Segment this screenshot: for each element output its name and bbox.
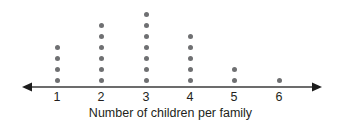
data-dot xyxy=(144,56,149,61)
data-dot xyxy=(99,78,104,83)
data-dot xyxy=(55,78,60,83)
dot-plot-figure: 123456 Number of children per family xyxy=(0,0,341,125)
data-dot xyxy=(188,45,193,50)
data-dot xyxy=(99,45,104,50)
tick-label-2: 2 xyxy=(86,90,116,104)
data-dot xyxy=(232,78,237,83)
dot-plot-dot-field xyxy=(0,0,341,90)
data-dot xyxy=(188,56,193,61)
data-dot xyxy=(277,78,282,83)
data-dot xyxy=(144,23,149,28)
data-dot xyxy=(144,45,149,50)
tick-label-5: 5 xyxy=(219,90,249,104)
data-dot xyxy=(232,67,237,72)
data-dot xyxy=(144,67,149,72)
data-dot xyxy=(99,34,104,39)
data-dot xyxy=(144,12,149,17)
data-dot xyxy=(188,67,193,72)
data-dot xyxy=(99,67,104,72)
data-dot xyxy=(188,78,193,83)
data-dot xyxy=(55,56,60,61)
data-dot xyxy=(55,67,60,72)
tick-label-4: 4 xyxy=(175,90,205,104)
data-dot xyxy=(188,34,193,39)
data-dot xyxy=(55,45,60,50)
data-dot xyxy=(99,23,104,28)
data-dot xyxy=(144,34,149,39)
axis-caption: Number of children per family xyxy=(0,106,341,120)
data-dot xyxy=(99,56,104,61)
tick-label-6: 6 xyxy=(264,90,294,104)
tick-label-1: 1 xyxy=(42,90,72,104)
tick-label-3: 3 xyxy=(131,90,161,104)
data-dot xyxy=(144,78,149,83)
